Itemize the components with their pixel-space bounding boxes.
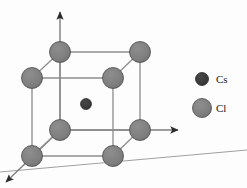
legend-label-cl: Cl	[216, 102, 226, 114]
figure-root: CsCl	[0, 0, 247, 188]
atom-cl-back-bottom-left	[50, 120, 71, 141]
legend-marker-cl	[193, 99, 212, 118]
atom-cl-back-top-right	[130, 42, 151, 63]
cscl-structure-svg: CsCl	[0, 0, 247, 188]
atom-cl-front-bottom-left	[22, 146, 43, 167]
atom-cl-back-top-left	[50, 42, 71, 63]
species-legend: CsCl	[193, 73, 228, 118]
atom-cl-front-top-left	[22, 68, 43, 89]
atom-cl-front-top-right	[103, 68, 124, 89]
atom-cl-back-bottom-right	[130, 120, 151, 141]
legend-marker-cs	[196, 73, 209, 86]
atom-cl-front-bottom-right	[103, 146, 124, 167]
legend-label-cs: Cs	[216, 73, 228, 85]
atom-cs-center	[81, 99, 92, 110]
cs-center-atom	[81, 99, 92, 110]
